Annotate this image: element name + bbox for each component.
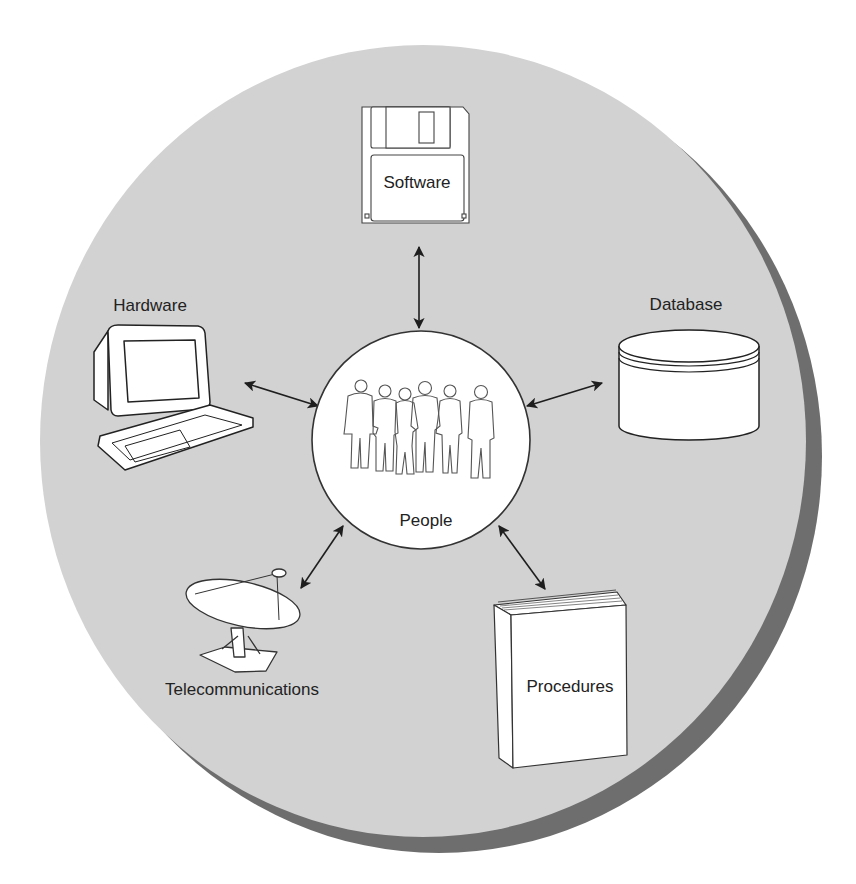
floppy-disk-icon (362, 107, 469, 223)
software-label: Software (383, 174, 450, 191)
hardware-label: Hardware (113, 297, 187, 314)
information-system-diagram (0, 0, 856, 884)
telecommunications-label: Telecommunications (165, 681, 319, 698)
people-label: People (400, 512, 453, 529)
database-cylinder-icon (619, 330, 759, 440)
database-label: Database (650, 296, 723, 313)
procedures-label: Procedures (527, 678, 614, 695)
